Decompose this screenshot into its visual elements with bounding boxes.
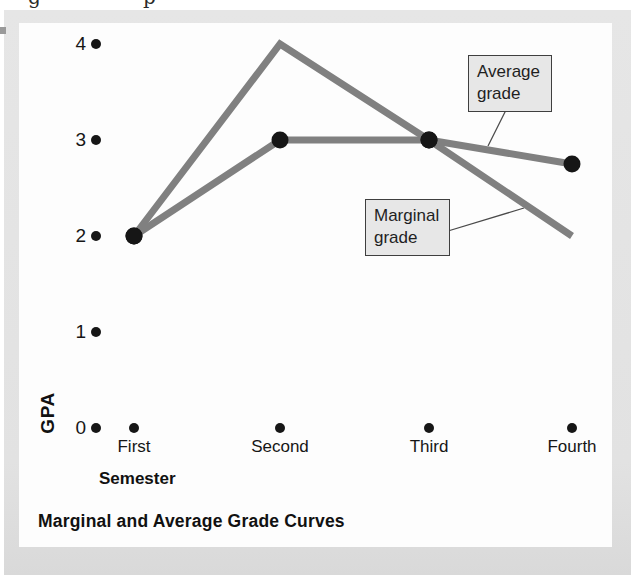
label-layer: 01234 FirstSecondThirdFourth GPA Semeste… — [0, 0, 631, 575]
y-tick-label: 4 — [56, 33, 86, 55]
scan-artifact — [0, 27, 6, 34]
x-axis-label: Semester — [99, 469, 176, 489]
chart-title: Marginal and Average Grade Curves — [38, 511, 345, 532]
y-tick-label: 3 — [56, 129, 86, 151]
cropped-text-strip: g p — [0, 0, 631, 10]
x-category-label: Second — [235, 437, 325, 457]
figure-page: g p 01234 FirstSecondThirdFourth GPA Sem… — [0, 0, 631, 575]
annotation-marginal-grade: Marginal grade — [365, 199, 450, 256]
annotation-marginal-grade-label: Marginal grade — [374, 206, 439, 247]
annotation-average-grade-label: Average grade — [477, 62, 540, 103]
cropped-text-fragment: g — [28, 0, 41, 9]
y-axis-label: GPA — [26, 391, 70, 435]
annotation-average-grade: Average grade — [468, 55, 552, 112]
x-category-label: First — [89, 437, 179, 457]
cropped-text-fragment: p — [143, 0, 156, 9]
y-tick-label: 2 — [56, 225, 86, 247]
x-category-label: Fourth — [527, 437, 617, 457]
x-category-label: Third — [384, 437, 474, 457]
y-tick-label: 1 — [56, 321, 86, 343]
